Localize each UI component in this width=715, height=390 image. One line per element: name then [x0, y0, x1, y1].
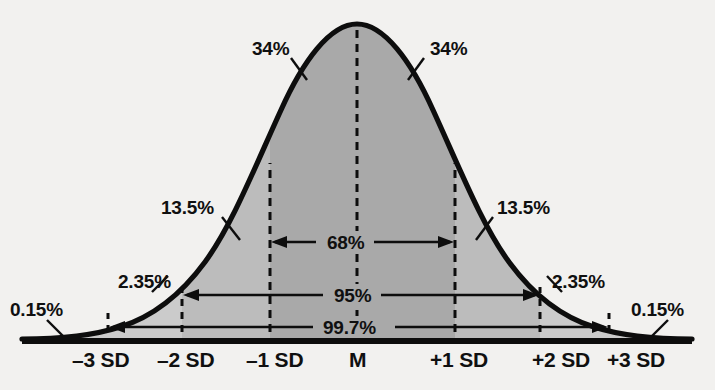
axis-tick-mean: M: [349, 348, 366, 372]
label-pct-015-right: 0.15%: [631, 299, 684, 321]
label-pct-015-left: 0.15%: [10, 299, 63, 321]
axis-tick-minus1sd: –1 SD: [246, 348, 303, 372]
label-pct-235-right: 2.35%: [552, 271, 605, 293]
axis-tick-minus3sd: –3 SD: [72, 348, 129, 372]
label-pct-235-left: 2.35%: [118, 271, 171, 293]
label-pct-135-right: 13.5%: [497, 197, 550, 219]
label-pct-34-left: 34%: [252, 38, 289, 60]
axis-tick-minus2sd: –2 SD: [157, 348, 214, 372]
label-span-997: 99.7%: [318, 317, 381, 339]
leader-line-015-left: [47, 320, 63, 336]
leader-line-015-right: [652, 320, 668, 336]
normal-distribution-figure: 34% 34% 13.5% 13.5% 2.35% 2.35% 0.15% 0.…: [0, 0, 715, 390]
axis-tick-plus2sd: +2 SD: [532, 348, 590, 372]
axis-tick-plus3sd: +3 SD: [607, 348, 665, 372]
label-span-95: 95%: [329, 285, 376, 307]
label-span-68: 68%: [322, 232, 369, 254]
label-pct-34-right: 34%: [430, 38, 467, 60]
label-pct-135-left: 13.5%: [161, 197, 214, 219]
axis-tick-plus1sd: +1 SD: [430, 348, 488, 372]
